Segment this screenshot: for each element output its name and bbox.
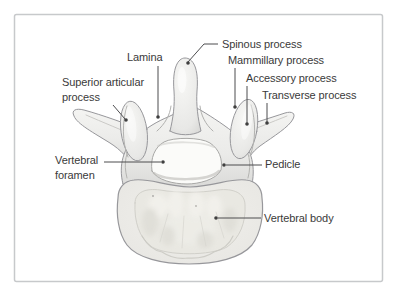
label-accessory-process: Accessory process xyxy=(246,71,337,86)
label-vertebral-body: Vertebral body xyxy=(264,211,334,226)
label-spinous-process: Spinous process xyxy=(222,37,302,52)
vertebra-diagram-figure: Spinous process Lamina Mammillary proces… xyxy=(0,0,395,296)
label-superior-articular-process: Superior articular process xyxy=(62,75,144,105)
label-transverse-process: Transverse process xyxy=(262,88,356,103)
label-lamina: Lamina xyxy=(127,50,162,65)
label-mammillary-process: Mammillary process xyxy=(228,53,324,68)
label-vertebral-foramen: Vertebral foramen xyxy=(55,153,98,183)
vertebra-illustration xyxy=(0,0,395,296)
label-pedicle: Pedicle xyxy=(265,157,300,172)
